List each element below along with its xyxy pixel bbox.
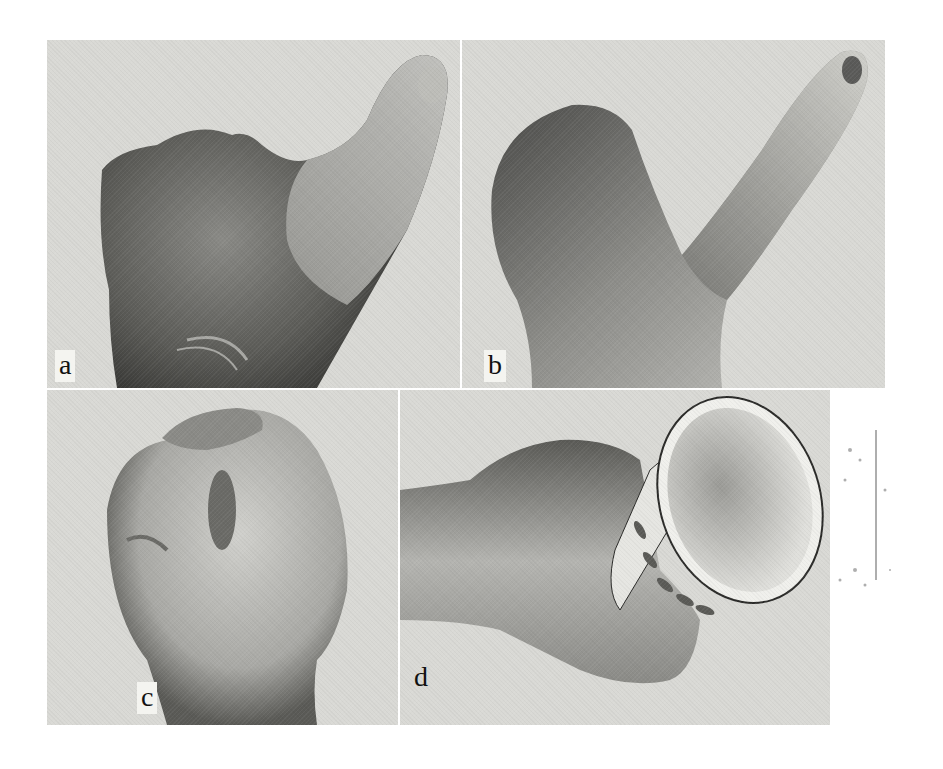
hand-image-c	[47, 390, 398, 725]
panel-label-b: b	[484, 350, 506, 382]
photo-panel-b: b	[462, 40, 885, 388]
hand-image-d	[400, 390, 830, 725]
photo-panel-c: c	[47, 390, 398, 725]
scan-artifact	[830, 420, 910, 620]
panel-label-c: c	[137, 682, 157, 714]
panel-label-a: a	[55, 350, 75, 382]
photo-panel-d: d	[400, 390, 830, 725]
hand-image-b	[462, 40, 885, 388]
hand-image-a	[47, 40, 460, 388]
panel-label-d: d	[410, 662, 432, 694]
figure: a b	[0, 0, 943, 769]
photo-panel-a: a	[47, 40, 460, 388]
